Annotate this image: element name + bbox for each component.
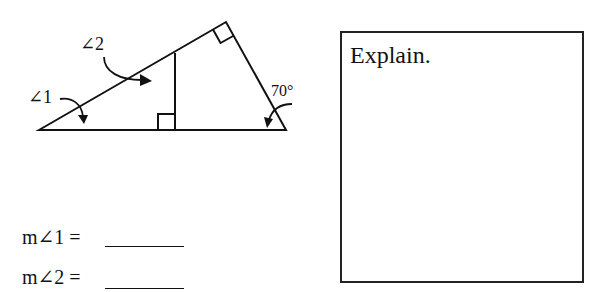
angle2-arrow-icon: [104, 57, 152, 86]
angle2-measure-label: m∠2 =: [22, 266, 81, 288]
angle2-answer-blank[interactable]: [105, 288, 184, 289]
angle1-measure-label: m∠1 =: [22, 226, 81, 248]
triangle-diagram: ∠1 ∠2 70°: [0, 0, 320, 160]
right-angle-mark-base: [158, 114, 175, 130]
angle1-label: ∠1: [28, 87, 52, 107]
angle2-label: ∠2: [80, 34, 104, 54]
explain-box[interactable]: Explain.: [340, 31, 584, 283]
angle1-arrow-icon: [60, 99, 88, 124]
answer-row-angle2: m∠2 =: [22, 266, 81, 288]
answer-row-angle1: m∠1 =: [22, 226, 81, 248]
angle70-label: 70°: [271, 82, 293, 99]
angle1-answer-blank[interactable]: [105, 246, 184, 247]
explain-label: Explain.: [350, 41, 431, 69]
